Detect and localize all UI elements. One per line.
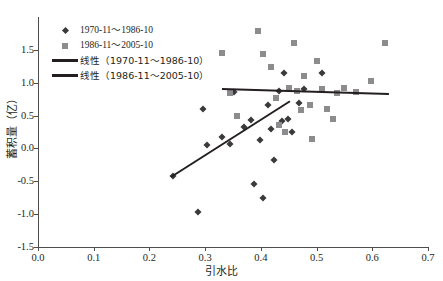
data-point-square xyxy=(273,95,279,101)
legend-item-label: 1970-11～1986-10 xyxy=(80,26,153,36)
legend-item-label: 1986-11～2005-10 xyxy=(80,41,153,51)
data-point-square xyxy=(255,28,261,34)
data-point-diamond xyxy=(296,100,303,107)
data-point-square xyxy=(301,73,307,79)
x-axis-tick xyxy=(428,247,429,251)
y-axis-tick xyxy=(34,181,38,182)
x-axis-tick xyxy=(317,247,318,251)
legend-item[interactable]: 线性（1970-11～1986-10） xyxy=(50,53,209,68)
data-point-diamond xyxy=(251,181,258,188)
y-axis-tick-label: 0.0 xyxy=(21,143,34,154)
data-point-square xyxy=(324,106,330,112)
data-point-square xyxy=(341,85,347,91)
y-axis-tick-label: -1.0 xyxy=(17,209,34,220)
scatter-chart-figure: -1.5-1.0-0.50.00.51.01.50.00.10.20.30.40… xyxy=(0,0,443,281)
x-axis-tick xyxy=(261,247,262,251)
data-point-square xyxy=(330,116,336,122)
data-point-diamond xyxy=(288,128,295,135)
legend-diamond-icon xyxy=(50,28,80,33)
y-axis-tick-label: 0.5 xyxy=(21,110,34,121)
chart-legend: 1970-11～1986-101986-11～2005-10线性（1970-11… xyxy=(50,23,209,83)
y-axis-tick xyxy=(34,83,38,84)
y-axis-tick xyxy=(34,50,38,51)
data-point-square xyxy=(382,40,388,46)
data-point-diamond xyxy=(218,133,225,140)
legend-key-glyph xyxy=(62,43,68,49)
x-axis-line xyxy=(38,247,429,248)
data-point-diamond xyxy=(257,137,264,144)
data-point-square xyxy=(298,107,304,113)
data-point-square xyxy=(314,58,320,64)
data-point-diamond xyxy=(271,157,278,164)
y-axis-tick xyxy=(34,148,38,149)
y-axis-tick xyxy=(34,214,38,215)
x-axis-tick xyxy=(205,247,206,251)
legend-key-glyph xyxy=(61,27,68,34)
legend-key-glyph xyxy=(52,74,78,77)
data-point-square xyxy=(307,102,313,108)
data-point-square xyxy=(227,90,233,96)
legend-key-glyph xyxy=(52,59,78,62)
y-axis-tick-label: -0.5 xyxy=(17,176,34,187)
data-point-square xyxy=(276,122,282,128)
legend-item[interactable]: 1986-11～2005-10 xyxy=(50,38,209,53)
data-point-diamond xyxy=(194,208,201,215)
y-axis-tick-label: -1.5 xyxy=(17,242,34,253)
legend-square-icon xyxy=(50,43,80,49)
x-axis-tick xyxy=(372,247,373,251)
data-point-square xyxy=(219,50,225,56)
y-axis-tick-label: 1.0 xyxy=(21,77,34,88)
data-point-square xyxy=(234,113,240,119)
legend-item-label: 线性（1986-11～2005-10） xyxy=(80,71,209,81)
data-point-diamond xyxy=(268,125,275,132)
data-point-square xyxy=(260,51,266,57)
legend-item-label: 线性（1970-11～1986-10） xyxy=(80,56,209,66)
legend-line-icon xyxy=(50,74,80,77)
legend-item[interactable]: 线性（1986-11～2005-10） xyxy=(50,68,209,83)
data-point-square xyxy=(282,129,288,135)
data-point-square xyxy=(291,40,297,46)
data-point-diamond xyxy=(265,102,272,109)
x-axis-title: 引水比 xyxy=(0,262,443,278)
legend-item[interactable]: 1970-11～1986-10 xyxy=(50,23,209,38)
y-axis-tick xyxy=(34,116,38,117)
data-point-diamond xyxy=(280,69,287,76)
data-point-square xyxy=(268,64,274,70)
y-axis-tick-label: 1.5 xyxy=(21,45,34,56)
data-point-diamond xyxy=(199,105,206,112)
data-point-square xyxy=(309,136,315,142)
data-point-diamond xyxy=(260,194,267,201)
legend-line-icon xyxy=(50,59,80,62)
data-point-diamond xyxy=(203,141,210,148)
x-axis-tick xyxy=(94,247,95,251)
trend-line xyxy=(170,100,290,178)
x-axis-tick xyxy=(38,247,39,251)
y-axis-title: 蓄积量（亿） xyxy=(3,76,19,176)
data-point-diamond xyxy=(284,116,291,123)
data-point-diamond xyxy=(318,70,325,77)
data-point-square xyxy=(368,78,374,84)
x-axis-tick xyxy=(149,247,150,251)
